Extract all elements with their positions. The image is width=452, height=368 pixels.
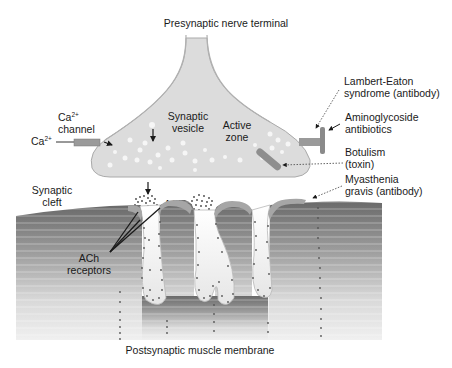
active-zone-label: Active zone [223,119,252,143]
svg-text:gravis (antibody): gravis (antibody) [345,185,423,197]
svg-text:receptors: receptors [67,264,111,276]
svg-text:Synaptic: Synaptic [32,184,72,196]
ca-channel-right-cap [320,127,325,154]
svg-text:(toxin): (toxin) [345,158,374,170]
svg-text:Lambert-Eaton: Lambert-Eaton [344,75,414,87]
svg-text:Botulism: Botulism [345,146,386,158]
presynaptic-terminal-label: Presynaptic nerve terminal [164,17,288,29]
svg-text:Ca2+: Ca2+ [58,111,79,123]
svg-text:zone: zone [226,131,249,143]
svg-text:syndrome (antibody): syndrome (antibody) [344,87,440,99]
postsynaptic-label: Postsynaptic muscle membrane [126,344,275,356]
annotation-myasthenia-gravis: Myasthenia gravis (antibody) [313,173,423,198]
svg-text:Aminoglycoside: Aminoglycoside [345,111,419,123]
synaptic-vesicle-label: Synaptic vesicle [168,110,208,134]
synaptic-cleft-label: Synaptic cleft [32,184,72,208]
neuromuscular-junction-diagram: Presynaptic nerve terminal ACh [0,0,452,368]
ca-channel-label: Ca2+ channel [58,111,95,135]
svg-text:Synaptic: Synaptic [168,110,208,122]
ca-channel [74,139,100,146]
ca-channel-right [299,138,321,146]
svg-text:Myasthenia: Myasthenia [345,173,399,185]
annotation-aminoglycoside: Aminoglycoside antibiotics [329,111,419,135]
svg-text:cleft: cleft [42,196,61,208]
svg-text:vesicle: vesicle [172,122,204,134]
junctional-folds [140,205,272,305]
svg-text:antibiotics: antibiotics [345,123,392,135]
ca-ion-label: Ca2+ [31,135,52,147]
svg-text:channel: channel [58,123,95,135]
svg-text:Active: Active [223,119,252,131]
svg-text:ACh: ACh [79,252,100,264]
